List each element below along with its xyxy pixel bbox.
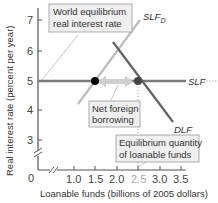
y-tick-6: 6 <box>27 45 33 57</box>
domestic-supply-point <box>91 77 99 85</box>
box3-line2: of loanable funds <box>119 149 192 160</box>
box3-line1: Equilibrium quantity <box>119 137 202 148</box>
y-axis-label: Real interest rate (percent per year) <box>4 26 15 176</box>
loanable-funds-chart: 7 6 5 4 3 0 1.0 1.5 2.0 2.5 3.0 3.5 Loan… <box>0 0 218 203</box>
y-tick-7: 7 <box>27 14 33 26</box>
box1-line1: World equilibrium <box>53 6 126 17</box>
origin-label: 0 <box>28 172 34 184</box>
slfd-label: SLFD <box>143 11 166 24</box>
box2-leader <box>111 85 118 100</box>
x-tick-1.0: 1.0 <box>66 173 81 185</box>
x-tick-2.5: 2.5 <box>131 173 146 185</box>
y-tick-5: 5 <box>27 75 33 87</box>
box3-leader <box>138 162 146 167</box>
x-tick-3.0: 3.0 <box>152 173 167 185</box>
dlf-label: DLF <box>174 124 193 135</box>
x-axis-label: Loanable funds (billions of 2005 dollars… <box>40 188 208 199</box>
box2-line2: borrowing <box>92 114 134 125</box>
x-axis-break <box>49 166 58 174</box>
box1-line2: real interest rate <box>53 18 122 29</box>
equilibrium-point <box>134 77 142 85</box>
x-tick-1.5: 1.5 <box>88 173 103 185</box>
y-tick-4: 4 <box>27 104 33 116</box>
slf-label: SLF <box>188 76 207 87</box>
x-tick-3.5: 3.5 <box>173 173 188 185</box>
y-tick-3: 3 <box>27 134 33 146</box>
box2-line1: Net foreign <box>92 103 138 114</box>
slfd-curve <box>78 20 140 104</box>
box1-leader <box>42 35 78 80</box>
x-tick-2.0: 2.0 <box>109 173 124 185</box>
net-foreign-borrowing-arrow <box>98 76 133 88</box>
